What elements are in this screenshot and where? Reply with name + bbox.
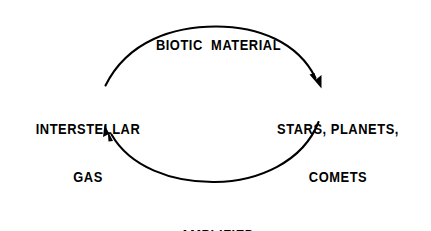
bottom-arc-label-line-1: AMPLIFIED xyxy=(19,227,416,231)
cycle-diagram: BIOTIC MATERIAL INTERSTELLAR GAS STARS, … xyxy=(0,0,431,231)
node-label-interstellar-gas-line-2: GAS xyxy=(7,169,169,185)
top-arc-label-line-1: BIOTIC MATERIAL xyxy=(20,37,417,53)
node-label-interstellar-gas-line-1: INTERSTELLAR xyxy=(7,121,169,137)
node-label-stars-planets-comets-line-1: STARS, PLANETS, xyxy=(257,121,419,137)
bottom-arc-label: AMPLIFIED BIOTIC MATERIAL xyxy=(19,195,416,231)
top-arc-label: BIOTIC MATERIAL xyxy=(20,5,417,85)
node-label-stars-planets-comets-line-2: COMETS xyxy=(257,169,419,185)
